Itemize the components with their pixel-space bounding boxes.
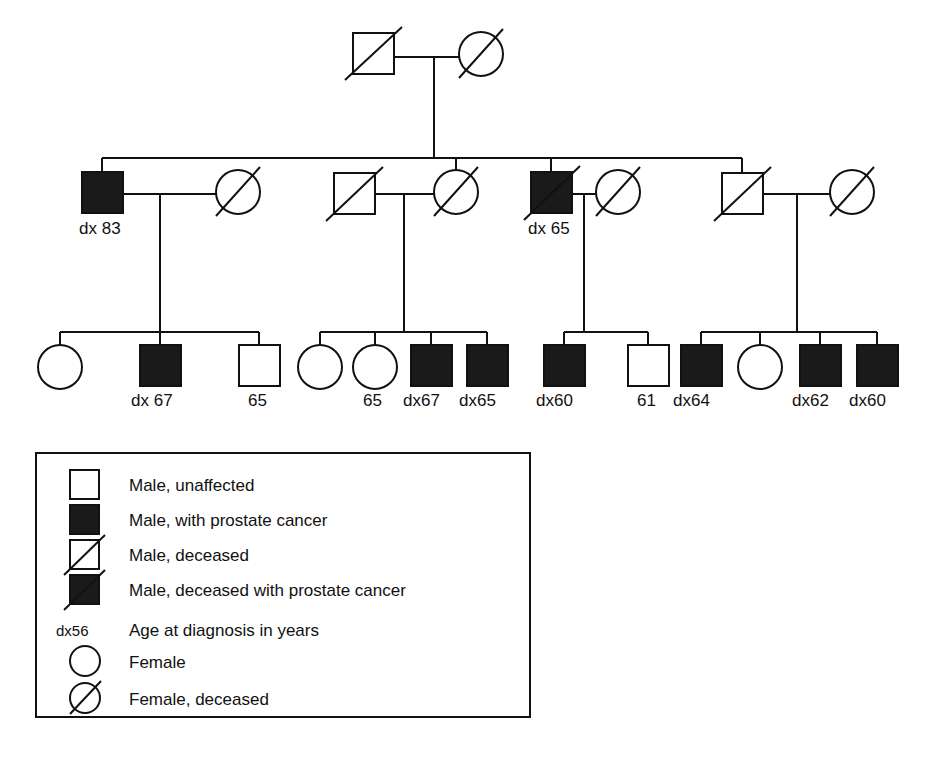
individual-II-4[interactable] xyxy=(434,167,478,216)
generation-2-couple-3: dx 65 xyxy=(524,166,640,332)
legend-label-7: Female, deceased xyxy=(129,690,269,709)
legend-label-6: Female xyxy=(129,653,186,672)
legend: Male, unaffected Male, with prostate can… xyxy=(36,453,530,717)
individual-III-8[interactable] xyxy=(544,345,585,386)
generation-3-sibship-1: dx 67 65 xyxy=(38,332,280,410)
male-square-affected-symbol xyxy=(82,172,123,213)
label-II-1: dx 83 xyxy=(79,219,121,238)
label-III-5: 65 xyxy=(363,391,382,410)
generation-2-couple-1: dx 83 xyxy=(79,167,260,332)
female-circle-symbol xyxy=(353,345,397,389)
individual-III-2[interactable] xyxy=(140,345,181,386)
male-square-symbol xyxy=(239,345,280,386)
label-III-8: dx60 xyxy=(536,391,573,410)
individual-II-2[interactable] xyxy=(216,167,260,216)
label-III-2: dx 67 xyxy=(131,391,173,410)
label-III-3: 65 xyxy=(248,391,267,410)
individual-II-8[interactable] xyxy=(830,167,874,216)
individual-III-9[interactable] xyxy=(628,345,669,386)
male-square-affected-symbol xyxy=(800,345,841,386)
generation-3-sibship-4: dx64 dx62 dx60 xyxy=(673,332,898,410)
individual-II-5[interactable] xyxy=(524,166,580,220)
individual-II-3[interactable] xyxy=(326,167,383,221)
generation-3-sibship-2: 65 dx67 dx65 xyxy=(298,332,508,410)
individual-III-4[interactable] xyxy=(298,345,342,389)
label-III-13: dx60 xyxy=(849,391,886,410)
generation-1-group xyxy=(345,27,503,158)
female-circle-symbol xyxy=(738,345,782,389)
individual-III-1[interactable] xyxy=(38,345,82,389)
dx-sample-text: dx56 xyxy=(56,622,89,639)
label-III-9: 61 xyxy=(637,391,656,410)
individual-III-11[interactable] xyxy=(738,345,782,389)
label-III-10: dx64 xyxy=(673,391,710,410)
individual-II-1[interactable] xyxy=(82,172,123,213)
individual-III-6[interactable] xyxy=(411,345,452,386)
generation-2-couple-2 xyxy=(326,167,478,332)
label-II-5: dx 65 xyxy=(528,219,570,238)
legend-label-4: Male, deceased with prostate cancer xyxy=(129,581,406,600)
generation-3-sibship-3: dx60 61 xyxy=(536,332,669,410)
individual-II-7[interactable] xyxy=(714,167,771,221)
individual-II-6[interactable] xyxy=(596,167,640,216)
male-square-affected-symbol xyxy=(857,345,898,386)
legend-label-1: Male, unaffected xyxy=(129,476,254,495)
male-square-affected-symbol xyxy=(467,345,508,386)
pedigree-diagram: dx 83 xyxy=(0,0,940,770)
individual-I-2[interactable] xyxy=(459,29,503,78)
square-filled-icon xyxy=(70,505,99,534)
male-square-affected-symbol xyxy=(681,345,722,386)
individual-III-10[interactable] xyxy=(681,345,722,386)
generation-2-couple-4 xyxy=(714,167,874,332)
individual-III-12[interactable] xyxy=(800,345,841,386)
legend-label-3: Male, deceased xyxy=(129,546,249,565)
label-III-7: dx65 xyxy=(459,391,496,410)
male-square-affected-symbol xyxy=(411,345,452,386)
individual-III-3[interactable] xyxy=(239,345,280,386)
individual-III-5[interactable] xyxy=(353,345,397,389)
legend-label-2: Male, with prostate cancer xyxy=(129,511,328,530)
individual-I-1[interactable] xyxy=(345,27,402,80)
generation-2-sibship xyxy=(102,158,742,172)
male-square-symbol xyxy=(628,345,669,386)
legend-label-5: Age at diagnosis in years xyxy=(129,621,319,640)
female-circle-symbol xyxy=(38,345,82,389)
individual-III-7[interactable] xyxy=(467,345,508,386)
square-open-icon xyxy=(70,470,99,499)
male-square-affected-symbol xyxy=(544,345,585,386)
individual-III-13[interactable] xyxy=(857,345,898,386)
male-square-affected-symbol xyxy=(140,345,181,386)
female-circle-symbol xyxy=(298,345,342,389)
label-III-12: dx62 xyxy=(792,391,829,410)
circle-open-icon xyxy=(70,646,100,676)
label-III-6: dx67 xyxy=(403,391,440,410)
pedigree-chart: dx 83 xyxy=(0,0,940,770)
